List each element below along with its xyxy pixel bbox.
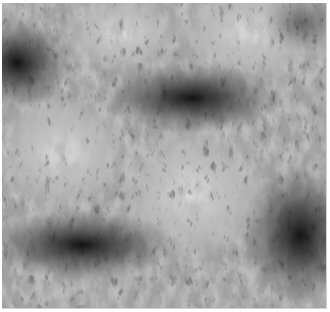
filament-texture xyxy=(2,3,326,308)
micrograph-image: Grayscale radial filament texture xyxy=(2,3,327,309)
